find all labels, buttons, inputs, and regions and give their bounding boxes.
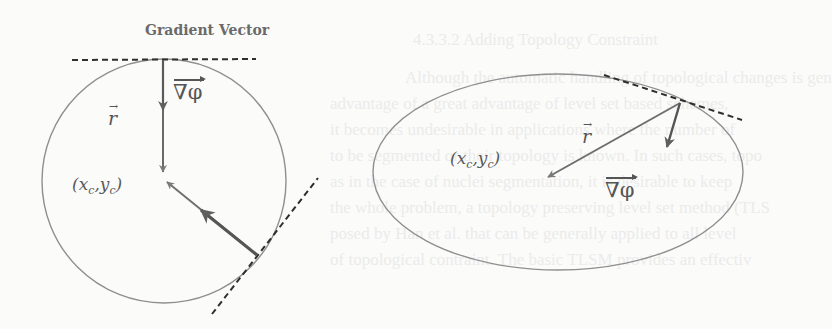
paren: ) [116,174,123,194]
gradient-label-left: ∇φ [173,80,202,104]
vector-arrow: → [583,118,592,131]
tangent-line-top [72,59,256,60]
paren: ( [72,174,79,194]
vector-arrow-overline [606,177,636,179]
paren: ( [450,148,457,168]
x-symbol: x [457,148,467,168]
radius-label-left: → r [108,107,117,129]
paren: ) [494,148,501,168]
tangent-line-lower-right [212,178,318,314]
gradient-arrow-diagonal [201,210,257,255]
x-symbol: x [79,174,89,194]
center-label-left: (xc,yc) [72,174,122,197]
gradient-label-right: ∇φ [605,178,634,202]
y-symbol: y [478,148,488,168]
gradient-symbol: ∇φ [173,80,202,104]
gradient-symbol: ∇φ [605,178,634,202]
vector-arrow: → [109,100,118,113]
radius-label-right: → r [582,125,591,147]
tangent-line-ellipse [604,75,742,120]
radius-vector-ellipse [548,103,680,177]
vector-arrow-overline [174,79,204,81]
ellipse-diagram [373,74,743,270]
center-label-right: (xc,yc) [450,148,500,171]
y-symbol: y [100,174,110,194]
figure-title: Gradient Vector [145,22,269,38]
